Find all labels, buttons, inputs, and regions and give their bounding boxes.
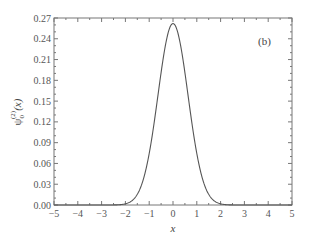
y-tick-label: 0.06 [34, 158, 52, 169]
x-tick-label: 3 [242, 208, 247, 219]
svg-text:ψ0(2)(x): ψ0(2)(x) [9, 98, 26, 125]
x-tick-label: −2 [120, 208, 131, 219]
x-tick-label: −4 [72, 208, 83, 219]
y-tick-label: 0.27 [34, 13, 52, 24]
x-tick-label: 1 [194, 208, 199, 219]
data-curve [54, 24, 292, 205]
y-tick-label: 0.12 [34, 116, 52, 127]
x-tick-label: −1 [144, 208, 155, 219]
panel-label: (b) [258, 35, 271, 48]
y-tick-label: 0.15 [34, 96, 52, 107]
y-tick-label: 0.24 [34, 33, 52, 44]
y-axis-ticks: 0.000.030.060.090.120.150.180.210.240.27 [34, 13, 293, 211]
y-tick-label: 0.03 [34, 179, 52, 190]
y-axis-label: ψ0(2)(x) [9, 98, 26, 125]
y-tick-label: 0.00 [34, 200, 52, 211]
x-tick-label: −3 [96, 208, 107, 219]
y-tick-label: 0.21 [34, 54, 52, 65]
x-tick-label: 4 [266, 208, 271, 219]
x-axis-label: x [170, 222, 176, 234]
y-tick-label: 0.18 [34, 75, 52, 86]
x-tick-label: 2 [218, 208, 223, 219]
chart: −5−4−3−2−1012345 0.000.030.060.090.120.1… [0, 0, 311, 239]
x-axis-ticks: −5−4−3−2−1012345 [49, 18, 295, 219]
plot-frame [54, 18, 292, 205]
x-tick-label: 5 [290, 208, 295, 219]
x-tick-label: 0 [171, 208, 176, 219]
y-tick-label: 0.09 [34, 137, 52, 148]
